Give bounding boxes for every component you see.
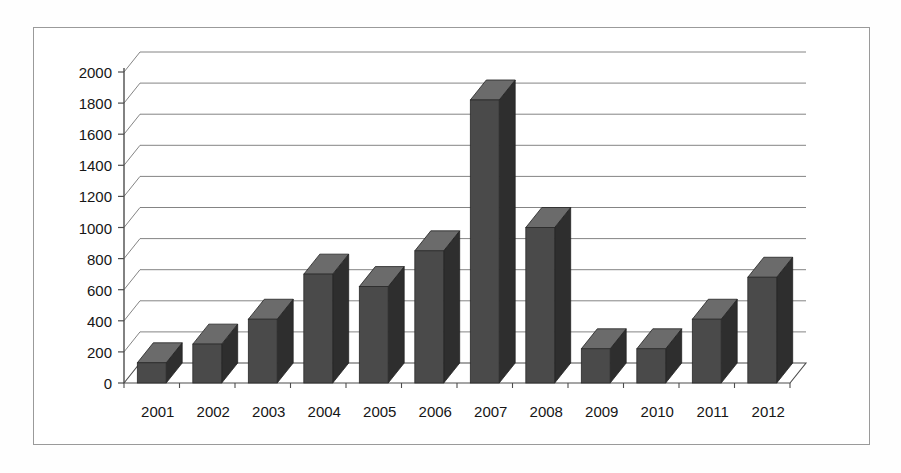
x-axis-label-2004: 2004: [308, 403, 341, 420]
x-axis-label-2011: 2011: [697, 403, 729, 420]
x-axis-label-2007: 2007: [474, 403, 507, 420]
gridline-1400: [124, 145, 806, 165]
bar-2011: [692, 299, 737, 383]
bar-2012: [748, 257, 793, 383]
gridline-2000: [124, 52, 806, 72]
y-axis-label-1200: 1200: [50, 188, 112, 205]
y-axis-label-2000: 2000: [50, 64, 112, 81]
x-axis-label-2008: 2008: [530, 403, 563, 420]
y-axis-label-1600: 1600: [50, 126, 112, 143]
y-axis-label-800: 800: [50, 250, 112, 267]
x-axis-label-2002: 2002: [197, 403, 230, 420]
bar-2005: [359, 267, 404, 383]
gridline-800: [124, 239, 806, 259]
x-axis-label-2010: 2010: [641, 403, 674, 420]
bar-2003: [248, 299, 293, 383]
x-axis-label-2009: 2009: [585, 403, 618, 420]
x-axis-label-2001: 2001: [141, 403, 174, 420]
y-axis-label-0: 0: [50, 375, 112, 392]
bar-2008: [526, 208, 571, 384]
y-axis-label-1400: 1400: [50, 157, 112, 174]
chart-page: 0200400600800100012001400160018002000 20…: [0, 0, 901, 473]
gridline-1000: [124, 208, 806, 228]
y-axis-label-600: 600: [50, 281, 112, 298]
gridline-600: [124, 270, 806, 290]
bar-2007: [470, 80, 515, 383]
bar-2004: [304, 254, 349, 383]
y-axis-label-1800: 1800: [50, 95, 112, 112]
x-axis-label-2005: 2005: [363, 403, 396, 420]
gridline-1600: [124, 114, 806, 134]
gridline-1800: [124, 83, 806, 103]
x-axis-label-2003: 2003: [252, 403, 285, 420]
x-axis-label-2006: 2006: [419, 403, 452, 420]
gridline-1200: [124, 176, 806, 196]
y-axis-label-200: 200: [50, 343, 112, 360]
bar-2006: [415, 231, 460, 383]
x-axis-label-2012: 2012: [752, 403, 785, 420]
y-axis-label-1000: 1000: [50, 219, 112, 236]
y-axis-label-400: 400: [50, 312, 112, 329]
